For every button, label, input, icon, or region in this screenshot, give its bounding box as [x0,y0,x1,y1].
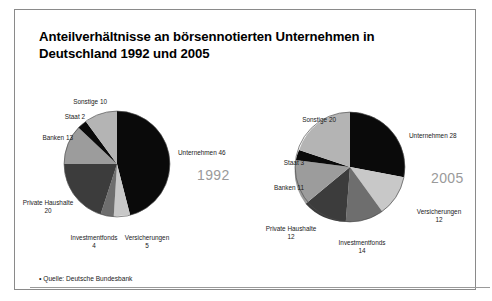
year-label-2005: 2005 [431,170,464,186]
label-private-haushalte-2005-value: 12 [287,233,294,240]
label-versicherungen-1992-value: 5 [145,242,149,249]
label-investmentfonds-2005-value: 14 [358,247,365,254]
pie-1992 [63,110,171,218]
label-versicherungen-2005: Versicherungen 12 [409,208,469,224]
label-investmentfonds-2005-name: Investmentfonds [339,239,386,246]
source-text: Quelle: Deutsche Bundesbank [43,275,132,282]
label-investmentfonds-1992-name: Investmentfonds [71,234,118,241]
chart-2005: Unternehmen 28 Versicherungen 12 Investm… [246,10,477,291]
chart-1992: Unternehmen 46 Versicherungen 5 Investme… [15,10,246,291]
label-unternehmen-2005: Unternehmen 28 [409,132,457,140]
footer-divider [30,287,490,288]
label-versicherungen-1992-name: Versicherungen [125,234,169,241]
label-investmentfonds-1992: Investmentfonds 4 [65,234,123,250]
label-private-haushalte-1992-value: 20 [44,207,51,214]
year-label-1992: 1992 [197,167,230,183]
label-staat-1992: Staat 2 [25,113,85,121]
source-bullet: • [39,275,41,282]
label-private-haushalte-2005: Private Haushalte 12 [260,225,322,241]
label-versicherungen-2005-value: 12 [435,216,442,223]
label-private-haushalte-2005-name: Private Haushalte [266,225,316,232]
source-note: • Quelle: Deutsche Bundesbank [39,275,132,282]
label-staat-2005: Staat 3 [250,159,304,167]
pie-2005-svg [294,111,406,223]
chart-frame: Anteilverhältnisse an börsennotierten Un… [14,9,476,290]
label-banken-1992: Banken 13 [15,134,73,142]
pie-1992-svg [63,110,171,218]
label-private-haushalte-1992: Private Haushalte 20 [17,199,79,215]
label-investmentfonds-2005: Investmentfonds 14 [332,239,392,255]
label-unternehmen-1992: Unternehmen 46 [178,149,226,157]
label-investmentfonds-1992-value: 4 [92,242,96,249]
label-sonstige-2005: Sonstige 20 [264,116,336,124]
label-private-haushalte-1992-name: Private Haushalte [23,199,73,206]
pie-2005 [294,111,406,223]
label-versicherungen-1992: Versicherungen 5 [119,234,175,250]
slice-unternehmen-2005 [350,112,405,177]
label-sonstige-1992: Sonstige 10 [35,98,107,106]
label-banken-2005: Banken 11 [246,184,304,192]
label-versicherungen-2005-name: Versicherungen [417,208,461,215]
